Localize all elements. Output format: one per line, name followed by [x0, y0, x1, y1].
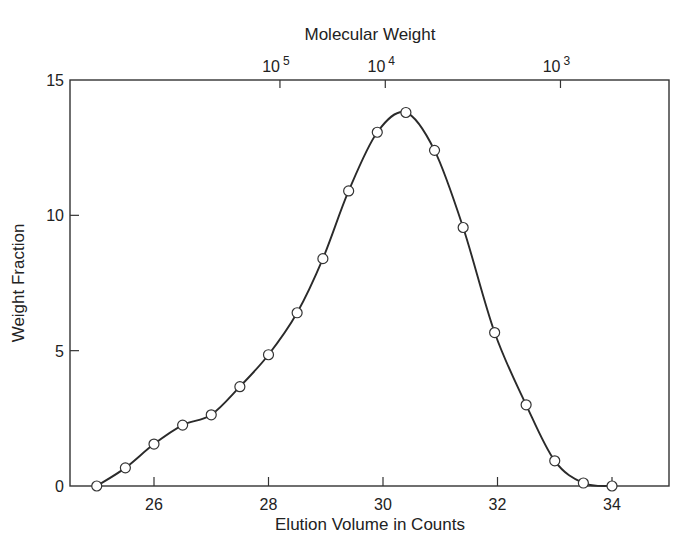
data-point — [292, 308, 302, 318]
data-point — [607, 481, 617, 491]
secondary-x-axis-label: Molecular Weight — [304, 25, 435, 44]
data-point — [206, 410, 216, 420]
secondary-x-tick-label: 105 — [262, 54, 290, 75]
data-point — [401, 107, 411, 117]
data-point — [178, 420, 188, 430]
y-axis-label: Weight Fraction — [9, 224, 28, 343]
data-point — [430, 145, 440, 155]
x-tick-label: 30 — [374, 496, 392, 513]
data-point — [550, 456, 560, 466]
secondary-x-tick-label: 104 — [368, 54, 396, 75]
x-tick-label: 26 — [145, 496, 163, 513]
data-points — [92, 107, 617, 491]
data-point — [578, 478, 588, 488]
data-point — [92, 481, 102, 491]
x-tick-label: 34 — [603, 496, 621, 513]
data-point — [120, 463, 130, 473]
x-tick-label: 32 — [489, 496, 507, 513]
y-tick-label: 5 — [55, 343, 64, 360]
secondary-x-axis: 105104103 — [262, 54, 570, 88]
data-point — [149, 439, 159, 449]
data-point — [458, 223, 468, 233]
x-tick-label: 28 — [260, 496, 278, 513]
x-axis-label: Elution Volume in Counts — [275, 515, 465, 534]
y-tick-label: 0 — [55, 478, 64, 495]
y-tick-label: 10 — [46, 207, 64, 224]
data-point — [264, 350, 274, 360]
secondary-x-tick-label: 103 — [543, 54, 571, 75]
data-point — [235, 382, 245, 392]
chart-canvas: 2628303234 051015 105104103 Elution Volu… — [0, 0, 686, 542]
data-point — [372, 127, 382, 137]
plot-frame — [70, 80, 669, 486]
data-point — [318, 254, 328, 264]
chart: 2628303234 051015 105104103 Elution Volu… — [0, 0, 686, 542]
data-point — [344, 186, 354, 196]
data-curve — [97, 112, 612, 486]
x-axis: 2628303234 — [145, 477, 621, 513]
y-axis: 051015 — [46, 72, 79, 495]
data-point — [521, 400, 531, 410]
plot-border — [70, 80, 669, 486]
y-tick-label: 15 — [46, 72, 64, 89]
data-point — [490, 328, 500, 338]
